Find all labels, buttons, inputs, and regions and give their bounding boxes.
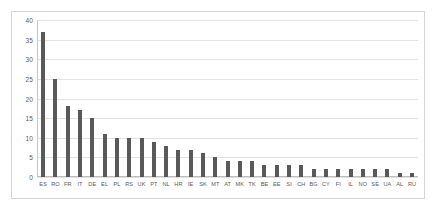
bar-no[interactable] bbox=[361, 169, 365, 177]
bar-el[interactable] bbox=[103, 134, 107, 177]
bar-slot bbox=[123, 20, 135, 177]
x-axis-tick-label: TK bbox=[246, 179, 258, 193]
bar-slot bbox=[357, 20, 369, 177]
x-axis-tick-label: UK bbox=[135, 179, 147, 193]
bar-slot bbox=[406, 20, 418, 177]
bar-slot bbox=[160, 20, 172, 177]
x-axis-tick-label: SI bbox=[283, 179, 295, 193]
bar-slot bbox=[209, 20, 221, 177]
bar-slot bbox=[320, 20, 332, 177]
bar-il[interactable] bbox=[349, 169, 353, 177]
x-axis-tick-label: FI bbox=[332, 179, 344, 193]
bar-slot bbox=[172, 20, 184, 177]
y-axis-tick-label: 25 bbox=[26, 75, 33, 82]
bar-slot bbox=[394, 20, 406, 177]
bar-hr[interactable] bbox=[176, 150, 180, 177]
bar-slot bbox=[308, 20, 320, 177]
bar-ua[interactable] bbox=[385, 169, 389, 177]
bar-pl[interactable] bbox=[115, 138, 119, 177]
bar-slot bbox=[185, 20, 197, 177]
y-axis-tick-label: 40 bbox=[26, 17, 33, 24]
x-axis-tick-label: RO bbox=[49, 179, 61, 193]
bar-ro[interactable] bbox=[53, 79, 57, 177]
x-axis-tick-label: EL bbox=[98, 179, 110, 193]
bar-mt[interactable] bbox=[213, 157, 217, 177]
bar-slot bbox=[74, 20, 86, 177]
x-axis-tick-label: EE bbox=[271, 179, 283, 193]
bar-tk[interactable] bbox=[250, 161, 254, 177]
bar-it[interactable] bbox=[78, 110, 82, 177]
bar-ru[interactable] bbox=[410, 173, 414, 177]
bar-fi[interactable] bbox=[336, 169, 340, 177]
bar-uk[interactable] bbox=[140, 138, 144, 177]
x-axis-tick-label: IE bbox=[185, 179, 197, 193]
x-axis-tick-label: RS bbox=[123, 179, 135, 193]
x-axis-tick-label: BG bbox=[308, 179, 320, 193]
x-axis: ESROFRITDEELPLRSUKPTNLHRIESKMTATMKTKBEEE… bbox=[37, 179, 418, 193]
y-axis-tick-label: 0 bbox=[29, 174, 33, 181]
bar-slot bbox=[234, 20, 246, 177]
x-axis-tick-label: CY bbox=[320, 179, 332, 193]
x-axis-tick-label: FR bbox=[62, 179, 74, 193]
x-axis-tick-label: HR bbox=[172, 179, 184, 193]
bar-ie[interactable] bbox=[189, 150, 193, 177]
bar-mk[interactable] bbox=[238, 161, 242, 177]
bar-slot bbox=[246, 20, 258, 177]
bar-slot bbox=[86, 20, 98, 177]
bar-slot bbox=[283, 20, 295, 177]
x-axis-tick-label: MT bbox=[209, 179, 221, 193]
chart-plot-wrapper: 4035302520151050 ESROFRITDEELPLRSUKPTNLH… bbox=[12, 12, 424, 198]
bar-ee[interactable] bbox=[275, 165, 279, 177]
y-axis-tick-label: 30 bbox=[26, 56, 33, 63]
x-axis-tick-label: BE bbox=[258, 179, 270, 193]
y-axis-tick-label: 35 bbox=[26, 36, 33, 43]
x-axis-tick-label: PT bbox=[148, 179, 160, 193]
x-axis-tick-label: AT bbox=[221, 179, 233, 193]
bar-si[interactable] bbox=[287, 165, 291, 177]
x-axis-tick-label: SK bbox=[197, 179, 209, 193]
x-axis-tick-label: AL bbox=[394, 179, 406, 193]
bar-slot bbox=[49, 20, 61, 177]
x-axis-tick-label: MK bbox=[234, 179, 246, 193]
gridline bbox=[37, 177, 418, 178]
bar-bg[interactable] bbox=[312, 169, 316, 177]
bar-series bbox=[37, 20, 418, 177]
bar-slot bbox=[344, 20, 356, 177]
x-axis-tick-label: DE bbox=[86, 179, 98, 193]
bar-slot bbox=[98, 20, 110, 177]
bar-slot bbox=[111, 20, 123, 177]
bar-slot bbox=[258, 20, 270, 177]
x-axis-tick-label: SE bbox=[369, 179, 381, 193]
x-axis-tick-label: NO bbox=[357, 179, 369, 193]
bar-al[interactable] bbox=[398, 173, 402, 177]
bar-de[interactable] bbox=[90, 118, 94, 177]
y-axis-tick-label: 20 bbox=[26, 95, 33, 102]
bar-ch[interactable] bbox=[299, 165, 303, 177]
x-axis-tick-label: NL bbox=[160, 179, 172, 193]
x-axis-tick-label: RU bbox=[406, 179, 418, 193]
bar-at[interactable] bbox=[226, 161, 230, 177]
bar-slot bbox=[381, 20, 393, 177]
bar-pt[interactable] bbox=[152, 142, 156, 177]
bar-cy[interactable] bbox=[324, 169, 328, 177]
chart-container: 4035302520151050 ESROFRITDEELPLRSUKPTNLH… bbox=[11, 11, 425, 199]
bar-be[interactable] bbox=[262, 165, 266, 177]
bar-rs[interactable] bbox=[127, 138, 131, 177]
x-axis-tick-label: UA bbox=[381, 179, 393, 193]
x-axis-tick-label: CH bbox=[295, 179, 307, 193]
bar-es[interactable] bbox=[41, 32, 45, 177]
bar-fr[interactable] bbox=[66, 106, 70, 177]
bar-slot bbox=[221, 20, 233, 177]
bar-sk[interactable] bbox=[201, 153, 205, 177]
y-axis-tick-label: 15 bbox=[26, 115, 33, 122]
y-axis: 4035302520151050 bbox=[12, 12, 36, 198]
x-axis-tick-label: ES bbox=[37, 179, 49, 193]
bar-slot bbox=[135, 20, 147, 177]
x-axis-tick-label: IL bbox=[344, 179, 356, 193]
bar-se[interactable] bbox=[373, 169, 377, 177]
bar-slot bbox=[148, 20, 160, 177]
bar-slot bbox=[332, 20, 344, 177]
x-axis-tick-label: PL bbox=[111, 179, 123, 193]
bar-nl[interactable] bbox=[164, 146, 168, 177]
y-axis-tick-label: 5 bbox=[29, 154, 33, 161]
